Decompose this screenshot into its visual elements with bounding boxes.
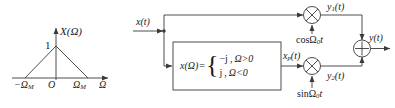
upper-branch-signal-label: y1(t) [327,2,344,13]
figure-canvas: X(Ω) 1 −ΩM O ΩM Ω x(t) xp(t) y1(t) y2(t)… [0,0,395,108]
block-cases: −j,Ω>0 j,Ω<0 [219,53,253,78]
multiplier2-to-adder-wire [321,57,363,66]
spectrum-right-tick-label: ΩM [73,80,86,91]
block-equals-sign: = [199,60,205,71]
input-signal-label: x(t) [136,17,150,27]
intermediate-signal-label: xp(t) [283,51,300,62]
multiplier1-to-adder-wire [321,15,363,40]
spectrum-peak-value-label: 1 [45,40,51,51]
upper-carrier-label: cosΩ0t [296,35,323,46]
spectrum-origin-label: O [48,80,55,90]
block-equation: x(Ω) = { −j,Ω>0 j,Ω<0 [180,53,253,78]
spectrum-left-tick-label: −ΩM [14,80,34,91]
spectrum-amplitude-axis-label: X(Ω) [60,26,82,37]
block-function-name: x(Ω) [180,61,198,71]
spectrum-omega-axis-label: Ω [99,80,106,90]
upper-branch-wire [164,15,303,31]
spectrum-triangle [25,46,88,78]
lower-branch-signal-label: y2(t) [327,71,344,82]
lower-carrier-label: sinΩ0t [297,89,322,100]
block-brace-icon: { [206,55,218,76]
block-case-1: −j,Ω>0 [219,53,253,64]
output-signal-label: y(t) [369,33,383,43]
block-case-2: j,Ω<0 [219,67,253,78]
lower-branch-wire-to-block [164,31,172,66]
